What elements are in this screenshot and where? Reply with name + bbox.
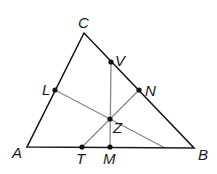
point-t (79, 144, 84, 149)
label-z: Z (112, 119, 123, 136)
point-v (108, 59, 113, 64)
label-m: M (103, 150, 116, 167)
label-b: B (198, 146, 208, 163)
label-a: A (11, 144, 22, 161)
label-c: C (78, 14, 89, 31)
label-v: V (115, 52, 127, 69)
point-l (52, 87, 57, 92)
triangle-diagram: C V L N Z A B T M (0, 0, 217, 174)
label-l: L (42, 81, 50, 98)
label-t: T (76, 150, 87, 167)
point-m (107, 144, 112, 149)
label-n: N (145, 82, 156, 99)
segment-vm (110, 62, 111, 147)
point-n (136, 87, 141, 92)
point-z (107, 116, 112, 121)
